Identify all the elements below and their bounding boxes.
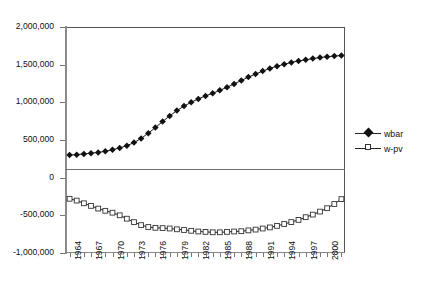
data-point-marker-diamond <box>238 77 245 84</box>
data-point-marker-diamond <box>209 90 216 97</box>
data-point-marker-diamond <box>317 54 324 61</box>
data-point-marker-diamond <box>267 65 274 72</box>
data-point-marker-diamond <box>88 150 95 157</box>
data-point-marker-diamond <box>109 147 116 154</box>
data-point-marker-diamond <box>231 81 238 88</box>
data-point-marker-square <box>239 229 244 234</box>
open-square-icon <box>365 144 371 150</box>
data-point-marker-square <box>160 226 165 231</box>
data-point-marker-square <box>89 204 94 209</box>
data-point-marker-diamond <box>281 61 288 68</box>
legend-label-wpv: w-pv <box>384 143 403 156</box>
data-point-marker-diamond <box>331 53 338 60</box>
chart-container: 2,000,0001,500,0001,000,000500,0000-500,… <box>0 0 447 296</box>
data-point-marker-square <box>67 196 72 201</box>
series-line-w-pv <box>70 199 342 233</box>
data-point-marker-diamond <box>131 139 138 146</box>
data-point-marker-square <box>325 206 330 211</box>
data-point-marker-diamond <box>259 68 266 75</box>
data-point-marker-square <box>189 228 194 233</box>
data-point-marker-square <box>167 226 172 231</box>
data-point-marker-square <box>282 222 287 227</box>
data-point-marker-diamond <box>324 54 331 61</box>
data-point-marker-square <box>196 229 201 234</box>
data-point-marker-square <box>110 210 115 215</box>
data-point-marker-diamond <box>188 99 195 106</box>
data-point-marker-diamond <box>95 149 102 156</box>
data-point-marker-square <box>289 220 294 225</box>
data-point-marker-square <box>246 228 251 233</box>
data-point-marker-square <box>268 225 273 230</box>
data-point-marker-diamond <box>66 152 73 159</box>
data-point-marker-diamond <box>116 145 123 152</box>
data-point-marker-diamond <box>288 59 295 66</box>
data-point-marker-square <box>82 201 87 206</box>
data-point-marker-square <box>203 230 208 235</box>
data-point-marker-square <box>74 198 79 203</box>
data-point-marker-square <box>96 206 101 211</box>
data-point-marker-square <box>303 215 308 220</box>
data-point-marker-square <box>332 202 337 207</box>
data-point-marker-diamond <box>245 74 252 81</box>
data-point-marker-diamond <box>202 93 209 100</box>
data-point-marker-square <box>103 208 108 213</box>
data-point-marker-diamond <box>274 63 281 70</box>
data-point-marker-square <box>232 229 237 234</box>
data-point-marker-diamond <box>102 148 109 155</box>
data-point-marker-square <box>153 225 158 230</box>
data-point-marker-diamond <box>181 103 188 110</box>
data-point-marker-diamond <box>302 57 309 64</box>
legend-label-wbar: wbar <box>384 128 403 141</box>
data-point-marker-diamond <box>217 87 224 94</box>
data-point-marker-square <box>175 227 180 232</box>
data-point-marker-square <box>146 225 151 230</box>
data-point-marker-diamond <box>73 151 80 158</box>
data-point-marker-square <box>124 216 129 221</box>
data-point-marker-diamond <box>224 84 231 91</box>
data-point-marker-diamond <box>81 151 88 158</box>
data-point-marker-square <box>253 227 258 232</box>
data-point-marker-square <box>260 226 265 231</box>
data-point-marker-square <box>339 197 344 202</box>
series-line-wbar <box>70 56 342 156</box>
data-point-marker-diamond <box>295 58 302 65</box>
data-point-marker-square <box>182 228 187 233</box>
data-point-marker-square <box>318 209 323 214</box>
data-point-marker-square <box>296 218 301 223</box>
data-point-marker-square <box>217 230 222 235</box>
data-point-marker-square <box>275 224 280 229</box>
data-point-marker-square <box>117 213 122 218</box>
data-point-marker-square <box>225 230 230 235</box>
data-point-marker-diamond <box>252 71 259 78</box>
data-point-marker-diamond <box>338 52 345 59</box>
data-point-marker-square <box>132 220 137 225</box>
data-point-marker-square <box>139 223 144 228</box>
data-point-marker-diamond <box>124 142 131 149</box>
data-point-marker-square <box>310 212 315 217</box>
data-point-marker-diamond <box>310 55 317 62</box>
data-point-marker-square <box>210 230 215 235</box>
data-point-marker-diamond <box>195 96 202 103</box>
